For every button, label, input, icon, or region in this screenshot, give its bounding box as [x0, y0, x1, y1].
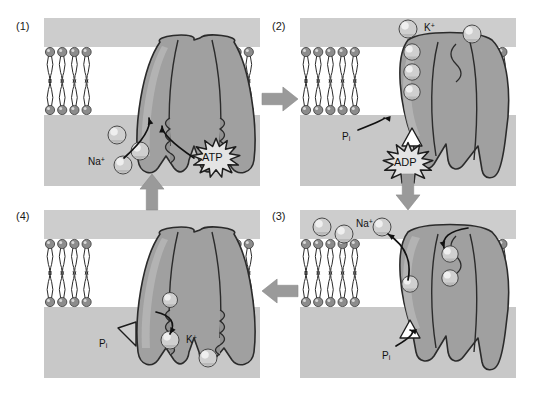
pi-label-subscript: i [106, 342, 108, 349]
k-label: K+ [186, 334, 197, 345]
panel-number-4: (4) [16, 210, 29, 222]
bound-sodium-ion [404, 84, 420, 100]
adp-burst-label: ADP [394, 156, 417, 168]
sodium-ion [313, 218, 331, 236]
pi-label: Pi [342, 131, 350, 142]
panel-number-1: (1) [16, 20, 29, 32]
pi-label-text: P [99, 338, 106, 349]
potassium-ion [399, 20, 417, 38]
figure-canvas: (1)Na+ATP(2)K+PiADP(3)Na+Pi(4)PiK+ [0, 0, 538, 397]
pi-label-subscript: i [389, 354, 391, 361]
na-label: Na+ [356, 218, 373, 229]
k-label-text: K [424, 22, 431, 33]
panel-number-2: (2) [272, 20, 285, 32]
flow-arrow-3-to-4 [262, 278, 298, 304]
bound-sodium-ion [402, 276, 418, 292]
atp-burst-label: ATP [202, 151, 223, 163]
k-label-text: K [186, 334, 193, 345]
bound-potassium-ion [442, 270, 458, 286]
potassium-ion [199, 349, 217, 367]
na-label-text: Na [88, 156, 101, 167]
na-label-charge: + [369, 218, 373, 225]
k-label-charge: + [431, 22, 435, 29]
na-k-atpase-pump [137, 35, 255, 173]
sodium-ion [108, 126, 126, 144]
pi-label-subscript: i [349, 135, 351, 142]
pi-label: Pi [382, 350, 390, 361]
sodium-ion [131, 142, 149, 160]
flow-arrow-2-to-3 [395, 174, 421, 210]
na-label: Na+ [88, 156, 105, 167]
pi-label-text: P [342, 131, 349, 142]
k-label-charge: + [193, 334, 197, 341]
bound-sodium-ion [404, 64, 420, 80]
flow-arrow-1-to-2 [262, 86, 298, 112]
sodium-ion [114, 156, 132, 174]
panel-graphic-4 [44, 210, 260, 378]
flow-arrow-4-to-1 [139, 174, 165, 210]
pi-label-text: P [382, 350, 389, 361]
k-label: K+ [424, 22, 435, 33]
na-label-charge: + [101, 156, 105, 163]
atp-burst-label-text: ATP [202, 151, 223, 163]
sodium-ion [335, 225, 353, 243]
panel-graphic-1 [44, 18, 260, 186]
adp-burst-label-text: ADP [394, 156, 417, 168]
pi-label: Pi [99, 338, 107, 349]
panel-graphic-3 [300, 210, 516, 378]
na-k-atpase-pump [400, 225, 509, 370]
panel-number-3: (3) [272, 210, 285, 222]
bound-potassium-ion [163, 293, 178, 308]
potassium-ion [463, 25, 481, 43]
bound-sodium-ion [404, 44, 420, 60]
na-label-text: Na [356, 218, 369, 229]
